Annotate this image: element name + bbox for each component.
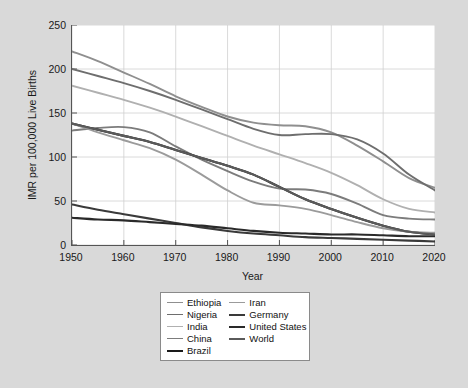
series-canvas bbox=[72, 25, 435, 245]
legend-label: World bbox=[249, 333, 274, 344]
y-tick-label: 250 bbox=[48, 19, 66, 31]
legend-swatch-icon bbox=[167, 326, 183, 327]
legend-item-world[interactable]: World bbox=[229, 333, 306, 344]
legend-label: China bbox=[187, 333, 212, 344]
legend-swatch-icon bbox=[229, 338, 245, 340]
x-tick-label: 2010 bbox=[370, 251, 393, 263]
legend-item-brazil[interactable]: Brazil bbox=[167, 345, 221, 356]
series-line-nigeria bbox=[72, 69, 435, 190]
plot-area bbox=[71, 25, 435, 246]
legend-swatch-icon bbox=[229, 302, 245, 303]
x-tick-label: 1990 bbox=[267, 251, 290, 263]
legend-swatch-icon bbox=[167, 350, 183, 352]
y-tick-label: 100 bbox=[48, 151, 66, 163]
legend-label: Ethiopia bbox=[187, 297, 221, 308]
y-axis-ticks: 050100150200250 bbox=[34, 25, 66, 245]
legend-label: Brazil bbox=[187, 345, 211, 356]
legend-swatch-icon bbox=[167, 302, 183, 303]
legend-label: India bbox=[187, 321, 208, 332]
x-tick-label: 1980 bbox=[215, 251, 238, 263]
legend-item-united-states[interactable]: United States bbox=[229, 321, 306, 332]
legend-columns: EthiopiaNigeriaIndiaChinaBrazilIranGerma… bbox=[167, 297, 303, 356]
x-tick-label: 1970 bbox=[163, 251, 186, 263]
x-axis-ticks: 19501960197019801990200020102020 bbox=[71, 251, 434, 267]
legend-item-india[interactable]: India bbox=[167, 321, 221, 332]
legend-column-2: IranGermanyUnited StatesWorld bbox=[229, 297, 306, 356]
y-tick-label: 0 bbox=[60, 239, 66, 251]
legend-swatch-icon bbox=[229, 326, 245, 328]
legend-column-1: EthiopiaNigeriaIndiaChinaBrazil bbox=[167, 297, 221, 356]
x-tick-label: 1960 bbox=[111, 251, 134, 263]
x-tick-label: 2020 bbox=[422, 251, 445, 263]
legend-swatch-icon bbox=[229, 314, 245, 316]
series-line-iran bbox=[72, 124, 435, 233]
legend-item-germany[interactable]: Germany bbox=[229, 309, 306, 320]
legend-item-ethiopia[interactable]: Ethiopia bbox=[167, 297, 221, 308]
y-tick-label: 200 bbox=[48, 63, 66, 75]
x-tick-label: 1950 bbox=[59, 251, 82, 263]
legend-item-nigeria[interactable]: Nigeria bbox=[167, 309, 221, 320]
legend-label: Germany bbox=[249, 309, 288, 320]
legend-swatch-icon bbox=[167, 314, 183, 315]
y-tick-label: 150 bbox=[48, 107, 66, 119]
chart-figure: IMR per 100,000 Live Births 050100150200… bbox=[0, 0, 468, 388]
x-axis-label: Year bbox=[71, 270, 434, 282]
chart-legend: EthiopiaNigeriaIndiaChinaBrazilIranGerma… bbox=[160, 292, 310, 361]
legend-item-china[interactable]: China bbox=[167, 333, 221, 344]
y-tick-label: 50 bbox=[54, 195, 66, 207]
legend-label: United States bbox=[249, 321, 306, 332]
x-tick-label: 2000 bbox=[319, 251, 342, 263]
series-line-ethiopia bbox=[72, 51, 435, 187]
legend-swatch-icon bbox=[167, 338, 183, 339]
legend-label: Nigeria bbox=[187, 309, 217, 320]
legend-item-iran[interactable]: Iran bbox=[229, 297, 306, 308]
series-line-india bbox=[72, 86, 435, 213]
legend-label: Iran bbox=[249, 297, 265, 308]
